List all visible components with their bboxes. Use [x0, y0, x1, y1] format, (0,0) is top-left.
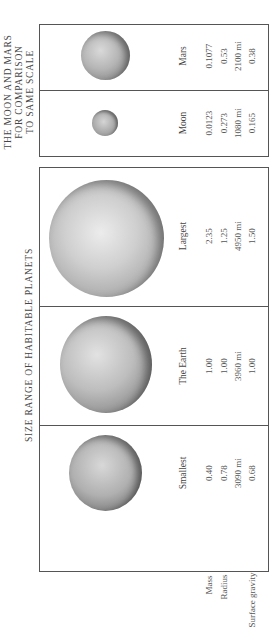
moon-surface-gravity: 0.165: [248, 113, 257, 133]
comparison-title-line-2: FOR COMPARISON: [15, 45, 25, 138]
mars-radius: 0.53: [220, 48, 229, 64]
smallest-planet-surface-gravity: 0.68: [248, 465, 257, 481]
moon-mass: 0.0123: [205, 111, 214, 136]
comparison-divider: [39, 90, 269, 91]
habitable-divider-1: [39, 306, 269, 307]
largest-planet-radius-miles: 4950 mi: [234, 221, 243, 251]
row-label-surface-gravity: Surface gravity: [248, 572, 257, 627]
habitable-divider-2: [39, 425, 269, 426]
moon-globe-image: [92, 110, 118, 136]
largest-planet-mass: 2.35: [205, 228, 214, 244]
largest-planet-surface-gravity: 1.50: [248, 228, 257, 244]
largest-planet-globe-image: [49, 180, 164, 297]
row-label-mass: Mass: [205, 575, 214, 594]
smallest-planet-mass: 0.40: [205, 465, 214, 481]
mars-radius-miles: 2100 mi: [234, 41, 243, 71]
mars-surface-gravity: 0.38: [248, 48, 257, 64]
smallest-planet-radius-miles: 3090 mi: [234, 458, 243, 488]
mars-globe-image: [81, 31, 130, 80]
largest-planet-name: Largest: [179, 222, 189, 250]
smallest-planet-name: Smallest: [179, 457, 189, 490]
smallest-planet-radius: 0.78: [220, 465, 229, 481]
mars-mass: 0.1077: [205, 44, 214, 69]
moon-radius-miles: 1080 mi: [234, 108, 243, 138]
earth-radius: 1.00: [220, 358, 229, 374]
habitable-title: SIZE RANGE OF HABITABLE PLANETS: [25, 248, 35, 442]
largest-planet-radius: 1.25: [220, 228, 229, 244]
mars-name: Mars: [179, 46, 189, 66]
earth-mass: 1.00: [205, 358, 214, 374]
smallest-planet-globe-image: [69, 435, 142, 511]
earth-globe-image: [60, 316, 152, 413]
earth-surface-gravity: 1.00: [248, 358, 257, 374]
comparison-title-line-1: THE MOON AND MARS: [4, 34, 14, 149]
moon-radius: 0.273: [220, 113, 229, 133]
row-label-radius: Radius: [220, 574, 229, 599]
earth-name: The Earth: [179, 347, 189, 385]
comparison-title-line-3: TO SAME SCALE: [26, 50, 36, 134]
earth-radius-miles: 3960 mi: [234, 351, 243, 381]
moon-name: Moon: [179, 112, 189, 135]
